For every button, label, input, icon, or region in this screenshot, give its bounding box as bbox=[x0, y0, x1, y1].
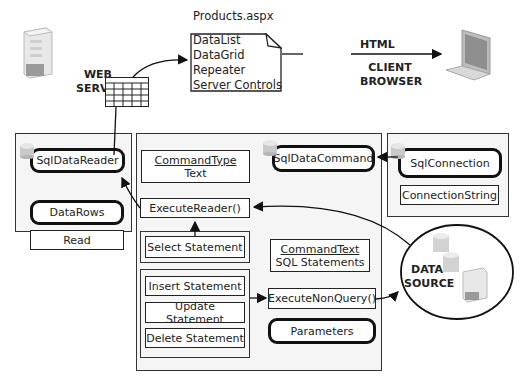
arrow-reader-from-execute bbox=[122, 178, 140, 208]
arrow-nonquery-to-source bbox=[376, 292, 398, 299]
source-label: SOURCE bbox=[404, 277, 450, 291]
data-server-icon bbox=[463, 268, 487, 302]
arrow-source-to-executereader bbox=[254, 206, 410, 245]
connector-overlay bbox=[0, 0, 523, 378]
data-source-label: DATA SOURCE bbox=[404, 263, 450, 291]
arrow-server-to-page bbox=[133, 60, 187, 77]
line-grid-to-reader bbox=[114, 107, 116, 155]
data-label: DATA bbox=[404, 263, 450, 277]
